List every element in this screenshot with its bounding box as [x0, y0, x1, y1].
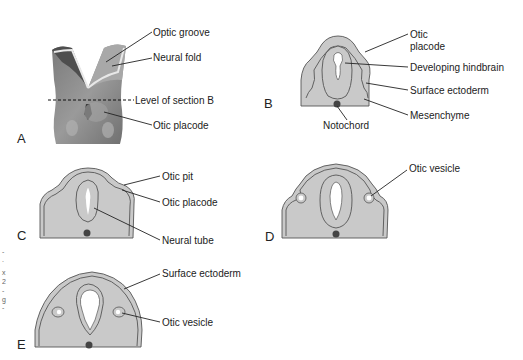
leader-surface-ectoderm-e [124, 274, 160, 289]
panel-letter-c: C [17, 228, 26, 243]
otic-vesicle-e-right-lumen [116, 310, 120, 314]
otic-development-diagram: Optic groove Neural fold Level of sectio… [0, 0, 523, 360]
label-otic-b-line2: placode [410, 41, 445, 52]
leader-otic-vesicle-d [371, 170, 407, 196]
notochord-e [86, 342, 93, 349]
panel-letter-d: D [265, 229, 274, 244]
label-surface-ectoderm-b: Surface ectoderm [410, 85, 489, 96]
panel-letter-b: B [264, 96, 273, 111]
label-otic-vesicle-e: Otic vesicle [162, 317, 214, 328]
margin-fragment: . [2, 256, 4, 263]
panel-a: Optic groove Neural fold Level of sectio… [17, 27, 214, 146]
label-neural-fold: Neural fold [153, 52, 201, 63]
notochord-d [333, 231, 340, 238]
leader-surface-ectoderm-b [366, 83, 408, 90]
panel-b: Otic placode Developing hindbrain Surfac… [264, 29, 504, 131]
panel-c: Otic pit Otic placode Neural tube C [17, 168, 218, 246]
margin-fragment: - [2, 248, 5, 255]
margin-fragment: - [2, 304, 5, 311]
label-optic-groove: Optic groove [153, 27, 210, 38]
label-developing-hindbrain: Developing hindbrain [410, 62, 504, 73]
margin-fragment: 2 [2, 278, 6, 285]
otic-vesicle-d-left-lumen [299, 196, 304, 201]
leader-notochord [337, 106, 347, 120]
panel-letter-e: E [17, 337, 26, 352]
margin-fragment: g [2, 296, 6, 304]
margin-fragment: x [2, 269, 6, 276]
leader-otic-placode-b [365, 34, 408, 52]
leader-mesenchyme [364, 99, 408, 115]
label-level-of-section: Level of section B [135, 95, 214, 106]
label-otic-pit: Otic pit [162, 171, 193, 182]
label-mesenchyme: Mesenchyme [410, 110, 470, 121]
embryo-illustration [52, 44, 126, 144]
margin-fragment: - [2, 287, 5, 294]
otic-vesicle-d-right-lumen [367, 196, 372, 201]
margin-fragments: - . x 2 - g - [2, 248, 6, 311]
label-surface-ectoderm-e: Surface ectoderm [162, 268, 241, 279]
label-notochord: Notochord [323, 120, 369, 131]
panel-e: Surface ectoderm Otic vesicle E [17, 268, 241, 352]
panel-letter-a: A [17, 131, 26, 146]
panel-d: Otic vesicle D [265, 163, 461, 244]
notochord-c [84, 230, 91, 237]
label-otic-placode-c: Otic placode [162, 197, 218, 208]
label-otic-vesicle-d: Otic vesicle [409, 163, 461, 174]
leader-otic-pit [124, 176, 160, 185]
label-neural-tube: Neural tube [162, 235, 214, 246]
otic-vesicle-e-left-lumen [57, 310, 61, 314]
label-otic-b-line1: Otic [410, 29, 428, 40]
label-otic-placode-a: Otic placode [153, 120, 209, 131]
